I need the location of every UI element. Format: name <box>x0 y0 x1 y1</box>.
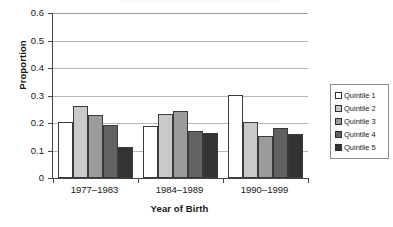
x-tick-mark <box>138 178 139 183</box>
legend-swatch-icon <box>335 144 342 151</box>
bar <box>273 128 288 178</box>
bar <box>203 133 218 178</box>
legend-swatch-icon <box>335 92 342 99</box>
bar <box>288 134 303 178</box>
legend-item[interactable]: Quintile 4 <box>335 128 385 141</box>
legend-item[interactable]: Quintile 3 <box>335 115 385 128</box>
bar <box>228 95 243 178</box>
legend-item[interactable]: Quintile 2 <box>335 102 385 115</box>
x-tick-label: 1977–1983 <box>52 184 137 195</box>
x-tick-mark <box>308 178 309 183</box>
x-tick-label: 1990–1999 <box>222 184 307 195</box>
bar-chart: Proportion 0.60.50.40.30.20.10 1977–1983… <box>0 0 393 227</box>
y-tick-label: 0.6 <box>12 8 44 18</box>
y-tick-label: 0.3 <box>12 91 44 101</box>
bar <box>188 131 203 178</box>
legend-label: Quintile 2 <box>344 105 376 113</box>
legend-item[interactable]: Quintile 1 <box>335 89 385 102</box>
x-tick-mark <box>53 178 54 183</box>
legend-swatch-icon <box>335 118 342 125</box>
bar-group <box>53 13 138 178</box>
legend: Quintile 1Quintile 2Quintile 3Quintile 4… <box>330 84 389 159</box>
legend-label: Quintile 1 <box>344 92 376 100</box>
bar-groups <box>53 13 308 178</box>
legend-label: Quintile 3 <box>344 118 376 126</box>
bar-group <box>223 13 308 178</box>
bar <box>88 115 103 178</box>
bar <box>243 122 258 178</box>
x-axis-title: Year of Birth <box>52 203 307 214</box>
bar <box>158 114 173 178</box>
legend-swatch-icon <box>335 105 342 112</box>
y-tick-label: 0 <box>12 173 44 183</box>
legend-swatch-icon <box>335 131 342 138</box>
bar <box>58 122 73 178</box>
x-tick-mark <box>223 178 224 183</box>
bar-group <box>138 13 223 178</box>
title-remnant <box>120 0 280 3</box>
bar <box>143 126 158 178</box>
bar <box>258 136 273 178</box>
y-tick-label: 0.5 <box>12 36 44 46</box>
legend-item[interactable]: Quintile 5 <box>335 141 385 154</box>
legend-label: Quintile 5 <box>344 144 376 152</box>
legend-label: Quintile 4 <box>344 131 376 139</box>
y-tick-label: 0.1 <box>12 146 44 156</box>
x-tick-label: 1984–1989 <box>137 184 222 195</box>
plot-area: 0.60.50.40.30.20.10 <box>52 13 308 179</box>
y-tick-label: 0.2 <box>12 118 44 128</box>
x-axis-labels: 1977–19831984–19891990–1999 <box>52 184 307 195</box>
y-tick-label: 0.4 <box>12 63 44 73</box>
bar <box>73 106 88 178</box>
bar <box>103 125 118 178</box>
bar <box>118 147 133 178</box>
bar <box>173 111 188 178</box>
